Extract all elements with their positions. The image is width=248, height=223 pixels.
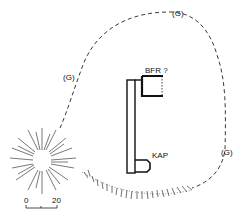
scale-start-label: 0	[24, 196, 29, 205]
label-g-right: (G)	[221, 148, 233, 157]
kap-structure	[135, 160, 150, 172]
long-wall	[127, 80, 135, 173]
bfr-structure	[142, 76, 163, 96]
label-kap: KAP	[152, 151, 168, 160]
scale-bar	[26, 205, 57, 208]
label-bfr: BFR ?	[145, 66, 168, 75]
label-g-top: (G)	[172, 9, 184, 18]
embankment-hatching	[82, 170, 192, 199]
sunburst-mound-symbol	[10, 128, 76, 194]
site-plan-diagram: BFR ? KAP (G) (G) (G) 0 20	[0, 0, 248, 223]
label-g-left: (G)	[63, 73, 75, 82]
scale-end-label: 20	[52, 196, 61, 205]
boundary-dashed-line	[60, 12, 225, 188]
